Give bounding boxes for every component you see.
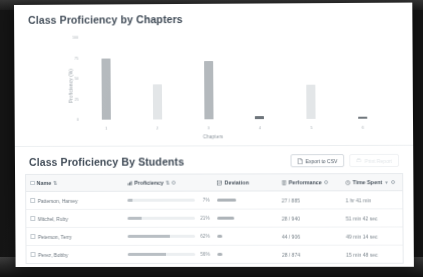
row-checkbox[interactable] xyxy=(31,252,36,257)
proficiency-bar-chart: Proficiency (%) 0255075100 123456 Chapte… xyxy=(24,28,403,142)
table-row[interactable]: Peterson, Terry62%44 / 90649 min 14 sec xyxy=(26,227,402,246)
x-axis-tick-label: 6 xyxy=(341,126,384,130)
row-checkbox[interactable] xyxy=(30,234,35,239)
x-axis-tick-label: 2 xyxy=(136,126,179,130)
deviation-bar xyxy=(218,234,274,237)
table-header-row: Name ⇅ Proficiency ⇅ Deviation xyxy=(26,174,402,192)
y-axis-tick-label: 25 xyxy=(65,97,79,101)
column-header-proficiency[interactable]: Proficiency ⇅ xyxy=(123,175,213,191)
chart-card: Class Proficiency by Chapters Proficienc… xyxy=(14,3,413,147)
row-checkbox[interactable] xyxy=(30,198,35,203)
cell-time-spent: 1 hr 41 min xyxy=(342,191,403,208)
cell-performance: 27 / 885 xyxy=(277,191,341,208)
student-name: Mitchel, Ruby xyxy=(38,215,68,221)
cell-proficiency: 56% xyxy=(124,246,214,262)
students-header: Class Proficiency By Students Export to … xyxy=(15,146,413,174)
proficiency-value: 21% xyxy=(198,216,209,221)
student-name: Peterson, Terry xyxy=(38,233,72,239)
student-name: Patterson, Harvey xyxy=(38,197,78,203)
deviation-bar-fill xyxy=(218,235,223,238)
chart-bar[interactable] xyxy=(306,85,315,119)
chart-bar[interactable] xyxy=(153,84,162,119)
y-axis-ticks: 0255075100 xyxy=(64,38,79,120)
info-icon[interactable] xyxy=(391,180,395,184)
deviation-bar-fill xyxy=(218,253,222,256)
cell-performance: 28 / 940 xyxy=(278,209,342,226)
performance-value: 28 / 940 xyxy=(282,215,300,221)
table-row[interactable]: Patterson, Harvey7%27 / 8851 hr 41 min xyxy=(26,191,402,210)
column-header-deviation-label: Deviation xyxy=(224,179,249,185)
column-header-deviation[interactable]: Deviation xyxy=(213,174,277,190)
cell-proficiency: 21% xyxy=(123,210,213,226)
column-header-name-label: Name xyxy=(37,180,52,186)
cell-name: Mitchel, Ruby xyxy=(26,210,123,227)
chart-bar[interactable] xyxy=(358,116,367,119)
y-axis-tick-label: 75 xyxy=(64,56,78,60)
row-checkbox[interactable] xyxy=(30,216,35,221)
column-header-time-spent[interactable]: Time Spent ▼ xyxy=(342,174,403,190)
column-header-performance-label: Performance xyxy=(289,179,322,185)
performance-value: 27 / 885 xyxy=(282,197,300,203)
time-spent-value: 51 min 42 sec xyxy=(346,215,378,221)
time-spent-value: 1 hr 41 min xyxy=(346,197,371,203)
sort-icon[interactable]: ▼ xyxy=(384,180,389,185)
chart-bar-slot xyxy=(238,37,282,120)
proficiency-bar-fill xyxy=(127,198,132,202)
students-table: Name ⇅ Proficiency ⇅ Deviation xyxy=(25,173,404,264)
table-row[interactable]: Mitchel, Ruby21%28 / 94051 min 42 sec xyxy=(26,209,402,228)
cell-time-spent: 15 min 48 sec xyxy=(342,246,403,263)
chart-bar[interactable] xyxy=(255,116,264,119)
proficiency-bar-fill xyxy=(128,217,142,221)
app-window: Class Proficiency by Chapters Proficienc… xyxy=(14,3,414,267)
column-header-performance[interactable]: Performance xyxy=(277,174,341,190)
proficiency-bar-fill xyxy=(128,235,170,239)
cell-deviation xyxy=(214,211,278,226)
chart-bars xyxy=(80,36,388,120)
y-axis-tick-label: 50 xyxy=(64,77,78,81)
info-icon[interactable] xyxy=(324,180,328,184)
chart-bar-slot xyxy=(84,37,127,119)
y-axis-tick-label: 0 xyxy=(65,118,79,122)
proficiency-bar-fill xyxy=(128,253,166,257)
column-header-time-spent-label: Time Spent xyxy=(353,179,382,185)
y-axis-tick-label: 100 xyxy=(64,36,78,40)
cell-name: Peterson, Terry xyxy=(26,228,123,245)
x-axis-tick-label: 5 xyxy=(290,126,333,130)
cell-performance: 28 / 874 xyxy=(278,246,342,263)
chart-bar[interactable] xyxy=(101,59,110,120)
cell-deviation xyxy=(214,229,278,244)
chart-icon xyxy=(127,180,132,185)
chart-bar-slot xyxy=(135,37,178,119)
proficiency-bar xyxy=(128,234,196,238)
export-to-csv-button[interactable]: Export to CSV xyxy=(290,154,344,167)
x-axis-tick-label: 3 xyxy=(187,126,230,130)
students-card-title: Class Proficiency By Students xyxy=(29,155,184,167)
cell-proficiency: 7% xyxy=(123,192,213,208)
list-icon xyxy=(281,180,286,185)
chart-card-title: Class Proficiency by Chapters xyxy=(14,3,412,26)
students-actions: Export to CSV Print Report xyxy=(290,154,399,167)
print-report-button[interactable]: Print Report xyxy=(350,154,400,167)
student-name: Perez, Bobby xyxy=(38,251,68,257)
x-axis-tick-label: 4 xyxy=(238,126,281,130)
cell-time-spent: 51 min 42 sec xyxy=(342,209,403,226)
chart-bar[interactable] xyxy=(204,61,213,119)
table-row[interactable]: Perez, Bobby56%28 / 87415 min 48 sec xyxy=(26,246,402,263)
chart-bar-slot xyxy=(341,36,385,119)
sort-icon[interactable]: ⇅ xyxy=(53,180,57,185)
cell-performance: 44 / 906 xyxy=(278,228,342,245)
deviation-bar xyxy=(218,253,274,256)
proficiency-value: 56% xyxy=(199,252,210,257)
deviation-bar xyxy=(218,198,274,202)
proficiency-value: 62% xyxy=(199,234,210,239)
sort-icon[interactable]: ⇅ xyxy=(166,180,170,185)
table-body: Patterson, Harvey7%27 / 8851 hr 41 minMi… xyxy=(26,191,403,263)
printer-icon xyxy=(357,158,362,163)
column-header-name[interactable]: Name ⇅ xyxy=(26,175,123,191)
cell-proficiency: 62% xyxy=(124,228,214,244)
select-all-checkbox[interactable] xyxy=(30,181,35,186)
info-icon[interactable] xyxy=(172,181,176,185)
deviation-bar-fill xyxy=(218,216,235,219)
cell-time-spent: 49 min 14 sec xyxy=(342,227,403,244)
deviation-bar xyxy=(218,216,274,219)
